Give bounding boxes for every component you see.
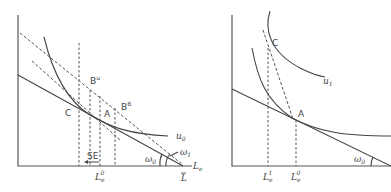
compensated-budget-line bbox=[32, 61, 120, 140]
point-Bu-label: Bu bbox=[90, 74, 100, 86]
angle-w1-label: ω1 bbox=[180, 147, 191, 158]
tick-Le0-right: Le0 bbox=[290, 169, 301, 183]
point-C-label: C bbox=[65, 108, 71, 118]
left-panel: SE C A Bu BB u0 ω0 ω1 Le Le0 L bbox=[18, 15, 203, 183]
tick-Lbar: L bbox=[180, 173, 187, 183]
angle-w0-right-label: ω0 bbox=[354, 154, 365, 165]
indifference-curve-u0 bbox=[44, 37, 168, 136]
curve-u1-label: u1 bbox=[323, 76, 333, 87]
curve-u0-label: u0 bbox=[176, 131, 186, 142]
angle-w0-label: ω0 bbox=[145, 154, 156, 165]
x-axis-label: Le bbox=[192, 161, 203, 172]
se-label: SE bbox=[87, 151, 99, 161]
labor-supply-diagram: SE C A Bu BB u0 ω0 ω1 Le Le0 L C A bbox=[0, 0, 391, 192]
tick-Le0: Le0 bbox=[94, 169, 105, 183]
right-axes bbox=[232, 15, 391, 166]
angle-arc-w0-right bbox=[371, 157, 373, 166]
angle-arc-w0 bbox=[160, 154, 162, 166]
point-BB-label: BB bbox=[121, 100, 131, 112]
indifference-curve-u0-right bbox=[252, 48, 391, 136]
budget-line-w0-right bbox=[232, 89, 391, 166]
point-C-right-label: C bbox=[272, 38, 278, 48]
angle-arc-w1 bbox=[166, 154, 170, 166]
w1-pointer bbox=[170, 152, 178, 156]
point-A-label: A bbox=[104, 109, 111, 119]
tick-Le1: Le1 bbox=[262, 169, 273, 183]
budget-line-w1 bbox=[20, 33, 183, 165]
point-A-right-label: A bbox=[298, 109, 305, 119]
right-panel: C A u1 ω0 Le1 Le0 bbox=[232, 11, 391, 183]
